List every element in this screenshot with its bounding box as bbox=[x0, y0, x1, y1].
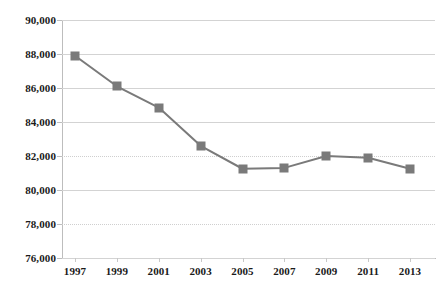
data-point-marker bbox=[238, 164, 247, 173]
x-axis-tick-label: 2003 bbox=[189, 266, 211, 277]
line-chart: 90,00088,00086,00084,00082,00080,00078,0… bbox=[0, 0, 447, 293]
x-axis-tick-label: 1999 bbox=[106, 266, 128, 277]
x-axis-tick-label: 1997 bbox=[64, 266, 86, 277]
x-axis-tick-label: 2009 bbox=[315, 266, 337, 277]
data-point-marker bbox=[112, 82, 121, 91]
data-point-marker bbox=[280, 163, 289, 172]
x-axis-tick-label: 2005 bbox=[231, 266, 253, 277]
x-axis-tick-label: 2001 bbox=[148, 266, 170, 277]
data-point-marker bbox=[71, 51, 80, 60]
data-point-marker bbox=[196, 141, 205, 150]
x-axis-tick-label: 2007 bbox=[273, 266, 295, 277]
data-point-marker bbox=[322, 152, 331, 161]
data-point-marker bbox=[406, 164, 415, 173]
data-point-marker bbox=[154, 103, 163, 112]
data-point-marker bbox=[364, 153, 373, 162]
x-axis-tick-label: 2011 bbox=[357, 266, 379, 277]
data-series-line bbox=[0, 0, 447, 293]
series-polyline bbox=[75, 56, 410, 169]
x-axis-tick-label: 2013 bbox=[399, 266, 421, 277]
